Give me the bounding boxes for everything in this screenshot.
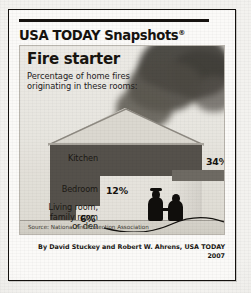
byline-credit: By David Stuckey and Robert W. Ahrens, U… [19,243,225,252]
value-label-living-room: 6% [80,213,96,224]
infographic-card: USA TODAY Snapshots® [8,9,236,281]
masthead-brand-text: USA TODAY Snapshots [19,28,178,43]
headline-block: Fire starter Percentage of home fires or… [27,51,151,92]
subtitle: Percentage of home fires originating in … [27,71,151,92]
person-left-body [148,197,163,221]
illustration-panel: Fire starter Percentage of home fires or… [19,45,225,235]
person-right-body [168,200,183,221]
page-title: Fire starter [27,51,151,68]
snapshot-page: USA TODAY Snapshots® [0,0,251,293]
source-note: Source: National Fire Protection Associa… [28,224,149,230]
row-label-kitchen: Kitchen [20,154,98,164]
registered-mark-icon: ® [178,29,185,37]
value-label-kitchen: 34% [206,156,225,167]
value-label-bedroom: 12% [106,185,128,196]
masthead-brand: USA TODAY Snapshots® [19,25,219,42]
masthead-rule [19,19,209,22]
house-roof-outline [48,108,204,146]
row-label-bedroom: Bedroom [20,185,98,195]
bar-kitchen-extension [172,170,224,181]
byline-year: 2007 [19,252,225,260]
